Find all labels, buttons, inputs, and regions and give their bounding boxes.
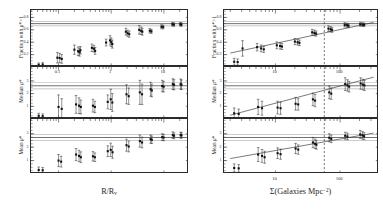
y-tick-label: 0.8 (24, 14, 29, 19)
panel-right-middle (223, 66, 378, 118)
y-tick-label: 2 (220, 144, 222, 149)
figure-canvas: Fraction with μ*>1 Median μ* Mean μ* R/R… (0, 0, 383, 212)
y-axis-label-median-right: Median μ* (211, 71, 217, 111)
plot-area-left-middle (31, 67, 187, 117)
panel-left-top (30, 9, 188, 66)
plot-area-right-bottom (224, 119, 377, 172)
y-tick-label: 3 (27, 130, 29, 135)
y-tick-label: 2 (27, 144, 29, 149)
y-axis-label-mean-right: Mean μ* (211, 126, 217, 164)
x-axis-label-radius: R/Rv (30, 187, 188, 196)
x-tick-label: 1 (100, 69, 120, 74)
y-tick-label: 0.2 (217, 51, 222, 56)
y-axis-label-mean-left: Mean μ* (18, 126, 24, 164)
y-tick-label: 0.4 (24, 39, 29, 44)
x-tick-label: 0.1 (48, 69, 68, 74)
panel-left-bottom (30, 118, 188, 173)
plot-area-left-top (31, 10, 187, 65)
x-axis-label-density: Σ(Galaxies Mpc−2) (209, 187, 383, 196)
plot-area-right-middle (224, 67, 377, 117)
panel-left-middle (30, 66, 188, 118)
left-panel-column: Fraction with μ*>1 Median μ* Mean μ* R/R… (0, 0, 192, 212)
x-tick-label: 100 (329, 176, 349, 181)
y-tick-label: 3 (27, 78, 29, 83)
y-tick-label: 1 (220, 157, 222, 162)
x-tick-label: 10 (264, 69, 284, 74)
x-tick-label: 100 (329, 69, 349, 74)
panel-right-bottom (223, 118, 378, 173)
y-tick-label: 0.6 (24, 26, 29, 31)
y-axis-label-median-left: Median μ* (18, 71, 24, 111)
y-tick-label: 0.6 (217, 26, 222, 31)
right-panel-column: Fraction with μ*>1 Median μ* Mean μ* Σ(G… (191, 0, 383, 212)
panel-right-top (223, 9, 378, 66)
y-tick-label: 0.8 (217, 14, 222, 19)
y-tick-label: 2 (220, 90, 222, 95)
y-tick-label: 1 (27, 103, 29, 108)
x-tick-label: 10 (153, 69, 173, 74)
y-tick-label: 1 (27, 157, 29, 162)
plot-area-left-bottom (31, 119, 187, 172)
y-tick-label: 2 (27, 90, 29, 95)
y-tick-label: 0.4 (217, 39, 222, 44)
plot-area-right-top (224, 10, 377, 65)
y-tick-label: 1 (220, 103, 222, 108)
y-tick-label: 3 (220, 78, 222, 83)
x-tick-label: 10 (264, 176, 284, 181)
y-tick-label: 3 (220, 130, 222, 135)
y-tick-label: 0.2 (24, 51, 29, 56)
